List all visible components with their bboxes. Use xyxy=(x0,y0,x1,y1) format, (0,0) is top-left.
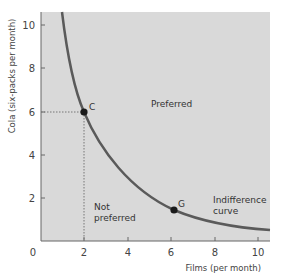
not-preferred-label-line1: Not xyxy=(94,202,110,212)
y-axis-title: Cola (six-packs per month) xyxy=(7,19,17,134)
x-tick-6: 6 xyxy=(168,247,174,258)
x-tick-10: 10 xyxy=(252,247,265,258)
x-axis-title: Films (per month) xyxy=(186,263,261,273)
y-tick-8: 8 xyxy=(29,63,35,74)
y-tick-4: 4 xyxy=(29,150,35,161)
preferred-label: Preferred xyxy=(151,99,192,109)
y-tick-6: 6 xyxy=(29,107,35,118)
indifference-curve-label-line2: curve xyxy=(213,206,239,216)
chart: 10 8 6 4 2 0 2 4 6 8 10 Films (per month… xyxy=(0,0,285,280)
x-tick-4: 4 xyxy=(125,247,131,258)
x-tick-8: 8 xyxy=(212,247,218,258)
indifference-curve-label-line1: Indifference xyxy=(213,195,267,205)
point-c xyxy=(80,108,87,115)
point-c-label: C xyxy=(89,102,95,112)
x-tick-0: 0 xyxy=(30,247,36,258)
not-preferred-label-line2: preferred xyxy=(94,213,136,223)
y-tick-10: 10 xyxy=(22,20,35,31)
point-g xyxy=(170,206,177,213)
y-tick-2: 2 xyxy=(29,193,35,204)
point-g-label: G xyxy=(178,199,185,209)
x-tick-2: 2 xyxy=(81,247,87,258)
